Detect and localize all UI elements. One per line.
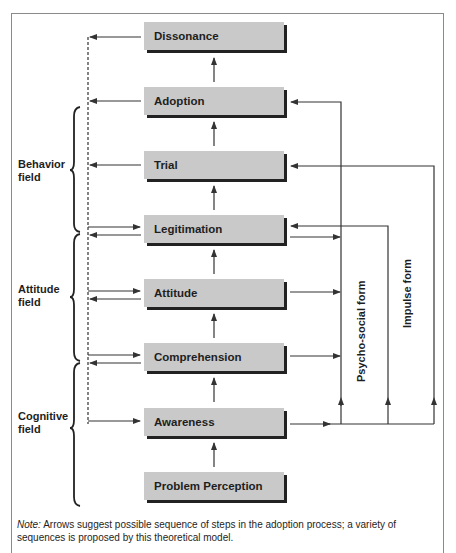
field-label-behavior: Behavior field	[18, 158, 65, 184]
figure-note: Note: Arrows suggest possible sequence o…	[17, 518, 437, 544]
box-problem-perception: Problem Perception	[144, 472, 284, 500]
note-text: Arrows suggest possible sequence of step…	[17, 519, 396, 543]
box-trial: Trial	[144, 151, 284, 179]
note-prefix: Note:	[17, 519, 41, 530]
label-impulse-form: Impulse form	[401, 259, 413, 328]
box-awareness: Awareness	[144, 408, 284, 436]
field-label-line: Attitude	[18, 283, 60, 296]
field-label-line: Cognitive	[18, 410, 68, 423]
box-comprehension: Comprehension	[144, 343, 284, 371]
field-label-line: field	[18, 171, 65, 184]
field-label-attitude: Attitude field	[18, 283, 60, 309]
bracket-behavior	[70, 107, 80, 232]
box-legitimation: Legitimation	[144, 215, 284, 243]
bracket-attitude	[70, 234, 80, 361]
field-label-line: field	[18, 423, 68, 436]
box-adoption: Adoption	[144, 87, 284, 115]
field-label-cognitive: Cognitive field	[18, 410, 68, 436]
bracket-cognitive	[70, 363, 80, 506]
field-label-line: field	[18, 296, 60, 309]
box-dissonance: Dissonance	[144, 22, 284, 50]
field-brackets	[70, 107, 80, 506]
field-label-line: Behavior	[18, 158, 65, 171]
box-attitude: Attitude	[144, 279, 284, 307]
label-psycho-social-form: Psycho-social form	[355, 281, 367, 382]
